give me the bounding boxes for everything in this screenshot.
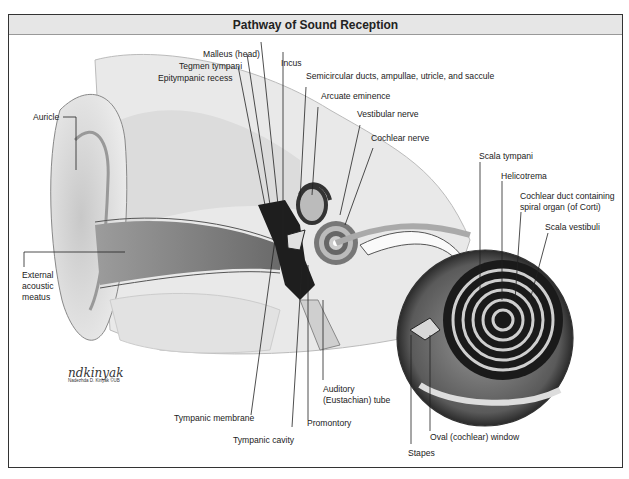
label-promontory: Promontory <box>307 418 351 429</box>
label-external-acoustic-meatus: External acoustic meatus <box>22 270 54 303</box>
label-tympanic-cavity: Tympanic cavity <box>233 435 294 446</box>
label-helicotrema: Helicotrema <box>501 171 547 182</box>
label-auricle: Auricle <box>33 112 59 123</box>
label-cochlear-nerve: Cochlear nerve <box>371 133 429 144</box>
label-epitympanic-recess: Epitympanic recess <box>158 73 233 84</box>
label-malleus: Malleus (head) <box>203 49 260 60</box>
label-stapes: Stapes <box>408 448 435 459</box>
label-arcuate-eminence: Arcuate eminence <box>321 91 390 102</box>
magnified-cochlea <box>397 250 573 426</box>
label-semicircular-ducts: Semicircular ducts, ampullae, utricle, a… <box>306 71 494 82</box>
label-cochlear-duct: Cochlear duct containing spiral organ (o… <box>520 191 615 213</box>
label-scala-vestibuli: Scala vestibuli <box>545 222 600 233</box>
label-tegmen-tympani: Tegmen tympani <box>179 61 242 72</box>
artist-signature: ndkinyak Nadezhda D. Kiriyak ©UB <box>68 366 123 383</box>
label-oval-window: Oval (cochlear) window <box>430 432 519 443</box>
label-tympanic-membrane: Tympanic membrane <box>174 413 254 424</box>
label-incus: Incus <box>281 58 302 69</box>
label-vestibular-nerve: Vestibular nerve <box>357 109 419 120</box>
label-scala-tympani: Scala tympani <box>479 151 533 162</box>
label-auditory-tube: Auditory (Eustachian) tube <box>323 384 390 406</box>
